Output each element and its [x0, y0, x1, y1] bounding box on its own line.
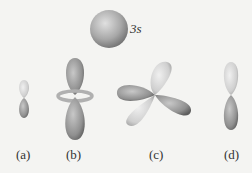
- panel-label-c: (c): [149, 147, 163, 163]
- orbital-c: [117, 62, 191, 126]
- orbital-b: [58, 58, 92, 140]
- orbital-a: [19, 80, 29, 118]
- 3s-orbital-sphere: [90, 10, 128, 48]
- panel-label-a: (a): [16, 147, 30, 163]
- panel-label-d: (d): [224, 147, 239, 163]
- panel-label-b: (b): [66, 147, 81, 163]
- orbital-d: [224, 62, 238, 130]
- orbital-diagram: [0, 0, 252, 173]
- 3s-label: 3s: [130, 21, 142, 37]
